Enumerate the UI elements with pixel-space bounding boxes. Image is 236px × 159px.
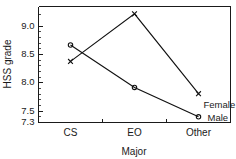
- series-line-male: [71, 45, 199, 117]
- x-tick-label: EO: [127, 127, 142, 138]
- y-tick-label: 7.5: [21, 105, 34, 116]
- marker-female-other: [196, 91, 201, 96]
- y-axis-tick-labels: 9.08.58.07.57.3: [21, 20, 34, 127]
- series-markers: [68, 11, 201, 119]
- axis-frame: [39, 7, 231, 123]
- chart-plot-area: 9.08.58.07.57.3 CSEOOther FemaleMale Maj…: [0, 0, 236, 159]
- series-lines: [71, 14, 199, 117]
- marker-female-eo: [132, 11, 137, 16]
- y-tick-label: 9.0: [21, 20, 34, 31]
- y-tick-label: 8.5: [21, 48, 34, 59]
- y-tick-label: 7.3: [21, 116, 34, 127]
- series-line-female: [71, 14, 199, 94]
- marker-female-cs: [68, 59, 73, 64]
- series-label-female: Female: [204, 99, 236, 110]
- x-axis-title: Major: [121, 146, 147, 157]
- chart-figure: 9.08.58.07.57.3 CSEOOther FemaleMale Maj…: [0, 0, 236, 159]
- y-axis-title: HSS grade: [2, 39, 13, 88]
- x-tick-label: CS: [64, 127, 78, 138]
- x-tick-label: Other: [186, 127, 212, 138]
- series-label-male: Male: [208, 112, 229, 123]
- x-axis-tick-labels: CSEOOther: [64, 127, 212, 138]
- y-tick-label: 8.0: [21, 76, 34, 87]
